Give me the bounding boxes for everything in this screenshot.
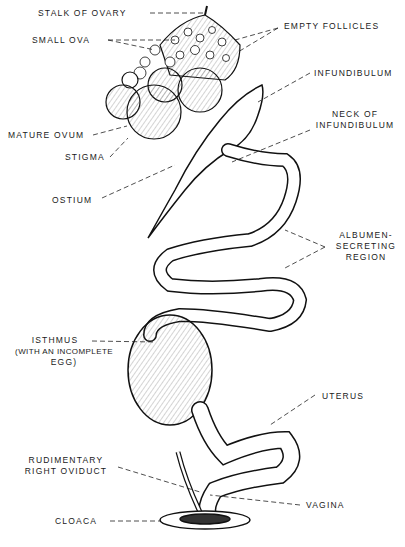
label-empty-follicles: EMPTY FOLLICLES	[284, 21, 379, 32]
label-isthmus-line1: ISTHMUS	[0, 335, 120, 346]
label-vagina: VAGINA	[306, 500, 345, 511]
label-mature-ovum: MATURE OVUM	[8, 130, 84, 141]
label-isthmus-line2: (WITH AN INCOMPLETE	[8, 346, 120, 357]
label-albumen-line1: ALBUMEN-	[335, 230, 397, 241]
label-neck-of-infundibulum: NECK OF INFUNDIBULUM	[314, 109, 396, 131]
label-isthmus: ISTHMUS (WITH AN INCOMPLETE EGG)	[8, 335, 120, 368]
label-albumen-line3: REGION	[335, 252, 397, 263]
label-small-ova: SMALL OVA	[32, 35, 90, 46]
label-cloaca: CLOACA	[55, 516, 97, 527]
label-infundibulum: INFUNDIBULUM	[314, 68, 393, 79]
label-stalk-of-ovary: STALK OF OVARY	[38, 8, 127, 19]
label-rudimentary-line1: RUDIMENTARY	[22, 455, 110, 466]
label-rudimentary-right-oviduct: RUDIMENTARY RIGHT OVIDUCT	[22, 455, 110, 477]
label-stigma: STIGMA	[65, 152, 105, 163]
label-uterus: UTERUS	[322, 391, 364, 402]
label-albumen-secreting-region: ALBUMEN- SECRETING REGION	[335, 230, 397, 263]
label-rudimentary-line2: RIGHT OVIDUCT	[22, 466, 110, 477]
label-ostium: OSTIUM	[52, 195, 92, 206]
label-albumen-line2: SECRETING	[335, 241, 397, 252]
label-neck-line1: NECK OF	[314, 109, 396, 120]
label-isthmus-line3: EGG)	[8, 357, 120, 368]
oviduct	[128, 85, 300, 529]
label-neck-line2: INFUNDIBULUM	[314, 120, 396, 131]
